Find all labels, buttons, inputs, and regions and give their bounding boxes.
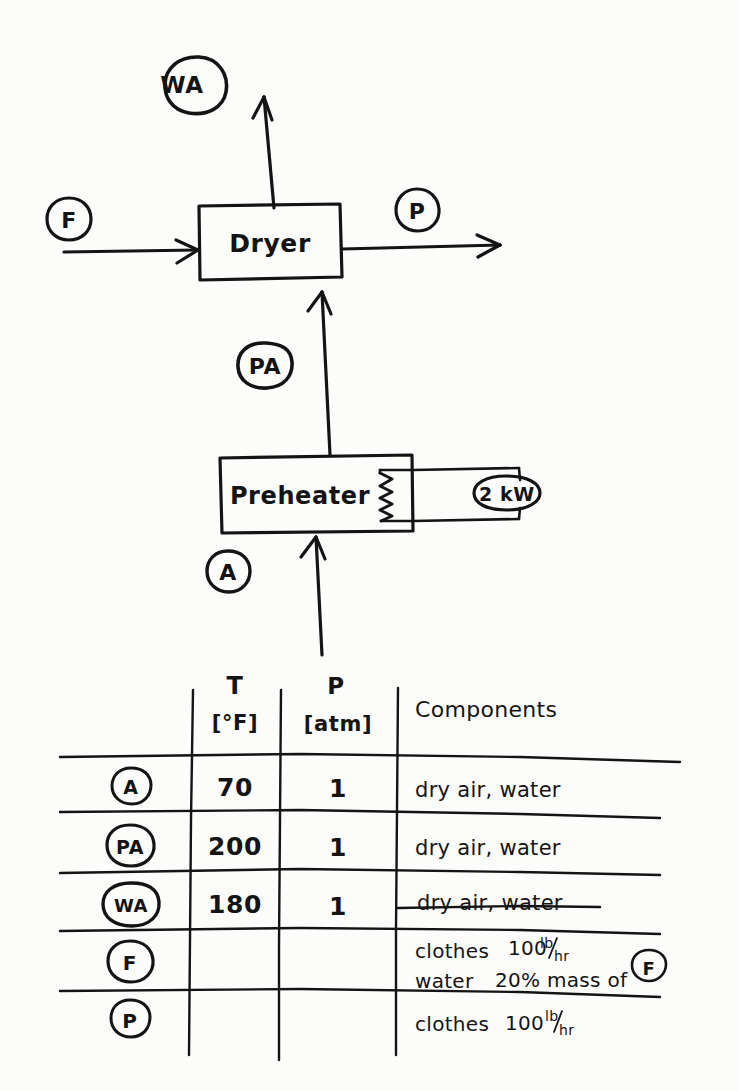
table-row-stream-f: F [123,951,137,975]
table-row-stream-a: A [123,776,138,798]
stream-arrow-pa [308,292,331,455]
table-cell-p-qty-0: 100 [505,1011,544,1035]
table-row-stream-pa: PA [116,836,144,858]
table-cell-wa-p: 1 [329,892,347,921]
table-header-t: T [227,672,244,700]
table-vertical-rules [189,688,398,1060]
stream-label-pa-text: PA [249,354,281,379]
process-flow-drawing: WA F P PA A Dryer Preheater 2 kW T [°F] … [0,0,738,1091]
unit-dryer-label: Dryer [229,229,311,258]
table-cell-wa-t: 180 [208,890,262,919]
table-cell-pa-t: 200 [208,832,262,861]
stream-label-f-text: F [61,208,77,233]
table-cell-f-component-1: water [415,969,474,993]
table-cell-pa-p: 1 [329,833,347,862]
table-cell-a-components: dry air, water [415,778,561,802]
stream-label-p-text: P [409,199,426,224]
table-row-stream-p: P [122,1009,137,1033]
table-cell-p-unit-lb-0: lb [545,1008,558,1024]
diagram-sheet: WA F P PA A Dryer Preheater 2 kW T [°F] … [0,0,738,1091]
stream-label-a-text: A [219,560,237,585]
table-cell-a-p: 1 [329,774,347,803]
table-cell-f-unit-lb-0: lb [540,935,553,951]
table-cell-f-component-0: clothes [415,939,489,963]
table-header-t-units: [°F] [212,711,258,735]
table-cell-a-t: 70 [217,773,253,802]
stream-label-wa-text: WA [160,72,203,98]
table-cell-wa-components: dry air, water [417,891,563,915]
table-header-p-units: [atm] [304,712,372,736]
table-header-components: Components [415,697,557,722]
table-row-stream-wa: WA [114,895,148,916]
table-cell-p-component-0: clothes [415,1012,489,1036]
stream-arrow-p [342,235,500,257]
table-cell-pa-components: dry air, water [415,836,561,860]
heating-coil-icon [380,470,392,521]
utility-2kw-label: 2 kW [479,483,535,505]
table-cell-f-unit-hr-0: hr [554,948,569,964]
unit-preheater-label: Preheater [230,482,370,510]
table-cell-f-circled-ref: F [643,958,656,979]
stream-arrow-f [64,240,198,263]
table-cell-f-qty-1: 20% mass of [495,968,628,992]
stream-arrow-a [301,537,325,655]
stream-arrow-wa [253,97,274,208]
table-cell-p-unit-hr-0: hr [559,1022,574,1038]
table-header-p: P [327,673,344,699]
